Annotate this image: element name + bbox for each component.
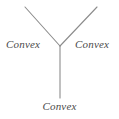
y-junction-figure: Convex Convex Convex (0, 0, 119, 119)
label-bottom-convex: Convex (0, 101, 119, 112)
label-left-convex: Convex (6, 39, 40, 50)
label-right-convex: Convex (75, 39, 109, 50)
